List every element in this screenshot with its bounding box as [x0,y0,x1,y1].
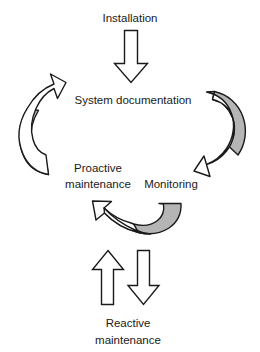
node-label-proactive-maintenance-line2: maintenance [65,178,131,190]
node-label-installation: Installation [103,12,158,24]
connector-documentation-to-proactive-icon [19,74,66,175]
node-label-monitoring: Monitoring [144,178,198,190]
node-label-reactive-maintenance-line1: Reactive [106,317,151,329]
connector-reactive-to-cycle-icon [93,251,124,305]
maintenance-cycle-diagram: Installation System documentation Proact… [0,0,260,352]
node-label-system-documentation: System documentation [75,94,192,106]
node-label-proactive-maintenance-line1: Proactive [74,162,122,174]
node-label-reactive-maintenance-line2: maintenance [95,334,161,346]
connector-cycle-to-reactive-icon [128,251,159,305]
connector-monitoring-to-documentation-icon [194,92,245,177]
diagram-canvas: Installation System documentation Proact… [0,0,260,352]
connector-installation-to-documentation-icon [115,31,148,83]
connector-monitoring-to-proactive-icon [93,201,182,234]
